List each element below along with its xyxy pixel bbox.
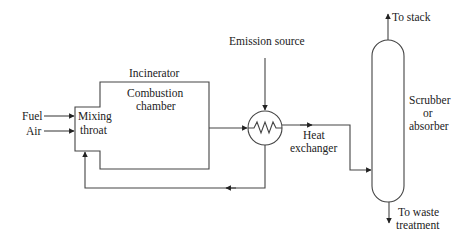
incinerator-label: Incinerator xyxy=(129,67,180,79)
to-stack-label: To stack xyxy=(392,11,431,23)
heat-exchanger-coil-icon xyxy=(248,122,282,133)
air-label: Air xyxy=(26,125,42,137)
mixing-throat-label-2: throat xyxy=(80,124,108,136)
heat-exchanger-label-1: Heat xyxy=(303,129,326,141)
fuel-label: Fuel xyxy=(22,110,42,122)
scrubber-label-3: absorber xyxy=(409,120,449,132)
heat-exchanger-label-2: exchanger xyxy=(290,142,337,155)
emission-source-label: Emission source xyxy=(229,35,305,47)
mixing-throat-label-1: Mixing xyxy=(78,110,112,123)
to-waste-label-2: treatment xyxy=(396,219,440,231)
recycle-line xyxy=(85,145,265,188)
scrubber-column xyxy=(372,40,404,202)
combustion-chamber-label-1: Combustion xyxy=(127,87,183,99)
scrubber-label-1: Scrubber xyxy=(409,94,451,106)
scrubber-label-2: or xyxy=(423,107,433,119)
to-waste-label-1: To waste xyxy=(398,206,439,218)
combustion-chamber-label-2: chamber xyxy=(136,100,176,112)
process-flow-diagram: Fuel Air Mixing throat Incinerator Combu… xyxy=(0,0,467,242)
